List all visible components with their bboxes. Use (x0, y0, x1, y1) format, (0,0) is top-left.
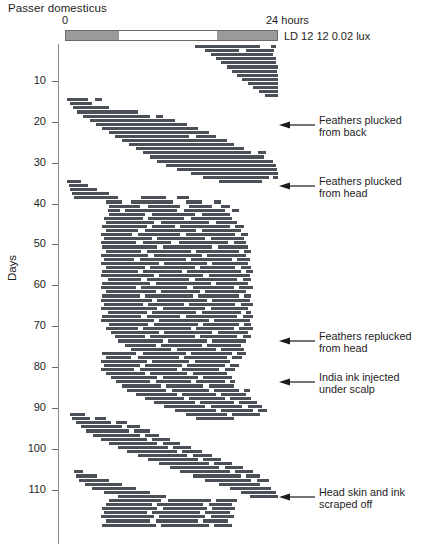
ld-segment-dark-late (217, 31, 277, 40)
activity-bout (232, 356, 243, 359)
actogram-row (65, 294, 278, 297)
activity-bout (83, 115, 150, 118)
actogram-row (65, 507, 278, 510)
activity-bout (102, 225, 146, 228)
activity-bout (212, 339, 246, 342)
activity-bout (95, 98, 102, 101)
lighting-regime-label: LD 12 12 0.02 lux (284, 30, 370, 42)
activity-bout (74, 196, 118, 199)
activity-bout (205, 49, 239, 52)
activity-bout (273, 176, 278, 179)
actogram-row (65, 368, 278, 371)
activity-bout (239, 401, 257, 404)
actogram-row (65, 172, 278, 175)
activity-bout (193, 372, 227, 375)
actogram-row (65, 515, 278, 518)
activity-bout (235, 225, 244, 228)
activity-bout (101, 360, 147, 363)
y-tick-50 (52, 244, 58, 245)
activity-bout (106, 221, 154, 224)
actogram-row (65, 143, 278, 146)
activity-bout (195, 45, 261, 48)
actogram-row (65, 384, 278, 387)
activity-bout (161, 524, 209, 527)
actogram-row (65, 110, 278, 113)
actogram-row (65, 389, 278, 392)
activity-bout (159, 319, 209, 322)
activity-bout (187, 364, 224, 367)
actogram-row (65, 115, 278, 118)
annotation-arrow-icon (279, 492, 315, 502)
activity-bout (259, 90, 278, 93)
activity-bout (72, 417, 90, 420)
activity-bout (211, 237, 245, 240)
actogram-row (65, 421, 278, 424)
activity-bout (218, 245, 248, 248)
activity-bout (104, 491, 150, 494)
activity-bout (205, 290, 246, 293)
actogram-row (65, 303, 278, 306)
activity-bout (136, 147, 244, 150)
activity-bout (106, 372, 145, 375)
actogram-row (65, 462, 278, 465)
annotation-arrow-icon (279, 181, 315, 191)
activity-bout (221, 61, 276, 64)
actogram-row (65, 339, 278, 342)
actogram-row (65, 409, 278, 412)
actogram-row (65, 266, 278, 269)
actogram-row (65, 188, 278, 191)
actogram-row (65, 278, 278, 281)
activity-bout (243, 278, 252, 281)
activity-bout (163, 245, 213, 248)
activity-bout (214, 389, 239, 392)
actogram-row (65, 155, 278, 158)
activity-bout (230, 380, 235, 383)
activity-bout (104, 303, 143, 306)
y-tick-100 (52, 449, 58, 450)
activity-bout (246, 49, 274, 52)
activity-bout (134, 429, 150, 432)
activity-bout (182, 450, 202, 453)
y-tick-70 (52, 326, 58, 327)
activity-bout (198, 294, 239, 297)
activity-bout (168, 339, 207, 342)
actogram-row (65, 123, 278, 126)
activity-bout (101, 319, 154, 322)
activity-bout (70, 188, 97, 191)
activity-bout (239, 327, 253, 330)
activity-bout (157, 237, 205, 240)
actogram-row (65, 131, 278, 134)
actogram-row (65, 474, 278, 477)
ld-segment-light (119, 31, 217, 40)
actogram-row (65, 192, 278, 195)
activity-bout (106, 356, 131, 359)
activity-bout (257, 479, 269, 482)
activity-bout (163, 507, 207, 510)
actogram-row (65, 65, 278, 68)
activity-bout (211, 53, 273, 56)
activity-bout (203, 323, 239, 326)
activity-bout (67, 180, 81, 183)
activity-bout (241, 266, 252, 269)
activity-bout (184, 356, 227, 359)
actogram-row (65, 470, 278, 473)
actogram-row (65, 323, 278, 326)
actogram-row (65, 139, 278, 142)
activity-bout (193, 474, 241, 477)
activity-bout (186, 315, 237, 318)
actogram-row (65, 86, 278, 89)
actogram-row (65, 319, 278, 322)
activity-bout (179, 241, 229, 244)
y-tick-10 (52, 81, 58, 82)
activity-bout (180, 225, 230, 228)
actogram-row (65, 335, 278, 338)
actogram-row (65, 229, 278, 232)
activity-bout (106, 229, 138, 232)
activity-bout (163, 442, 181, 445)
activity-bout (246, 311, 251, 314)
y-tick-label-80: 80 (6, 360, 46, 372)
activity-bout (196, 327, 233, 330)
annotation-arrow-icon (279, 120, 315, 130)
actogram-row (65, 49, 278, 52)
y-tick-20 (52, 122, 58, 123)
